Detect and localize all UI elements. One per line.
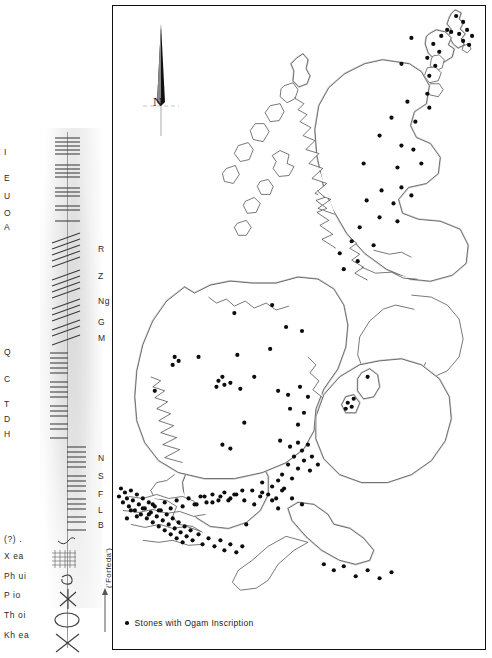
letter-label-n: N [98,454,105,463]
letter-label-m: M [98,334,106,343]
letter-label-unknown: (?) . [4,535,22,544]
letter-label-b: B [98,521,104,530]
compass-north-label: N [153,94,162,110]
letter-label-ph-ui: Ph ui [4,572,26,581]
letter-label-h: H [4,430,11,439]
letter-label-g: G [98,318,105,327]
legend-label: Stones with Ogam Inscription [135,618,254,628]
letter-label-q: Q [4,348,11,357]
distribution-map-panel: N Stones with Ogam Inscription [112,5,486,650]
letter-label-x-ea: X ea [4,552,24,561]
letter-label-e: E [4,174,10,183]
letter-label-o: O [4,209,11,218]
letter-label-d: D [4,415,11,424]
letter-label-th-oi: Th oi [4,611,26,620]
letter-label-s: S [98,472,104,481]
letter-label-a: A [4,223,10,232]
letter-label-u: U [4,192,11,201]
letter-label-ng: Ng [98,297,110,306]
ogham-alphabet-panel: I E U O A Q C T D H (?) . X ea Ph ui P i… [0,0,112,658]
letter-label-f: F [98,490,104,499]
legend-dot-icon [125,621,129,625]
map-legend: Stones with Ogam Inscription [125,618,253,628]
letter-label-z: Z [98,272,104,281]
letter-label-l: L [98,506,103,515]
letter-label-i: I [4,148,7,157]
compass-north-arrow [131,18,191,138]
letter-label-t: T [4,400,10,409]
forfeda-range-arrow [100,586,110,632]
letter-label-p-io: P io [4,591,21,600]
letter-label-c: C [4,375,11,384]
letter-label-kh-ea: Kh ea [4,631,29,640]
letter-label-r: R [98,245,105,254]
